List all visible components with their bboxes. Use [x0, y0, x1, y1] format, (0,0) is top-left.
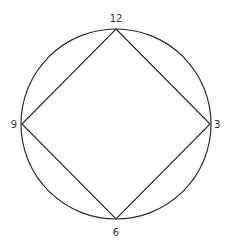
label-9: 9 — [11, 119, 17, 130]
label-6: 6 — [113, 227, 119, 238]
outer-circle — [21, 29, 211, 219]
label-12: 12 — [110, 13, 123, 24]
clock-square-diagram: 12 3 6 9 — [0, 0, 232, 250]
label-3: 3 — [214, 119, 220, 130]
inscribed-square — [22, 29, 210, 219]
